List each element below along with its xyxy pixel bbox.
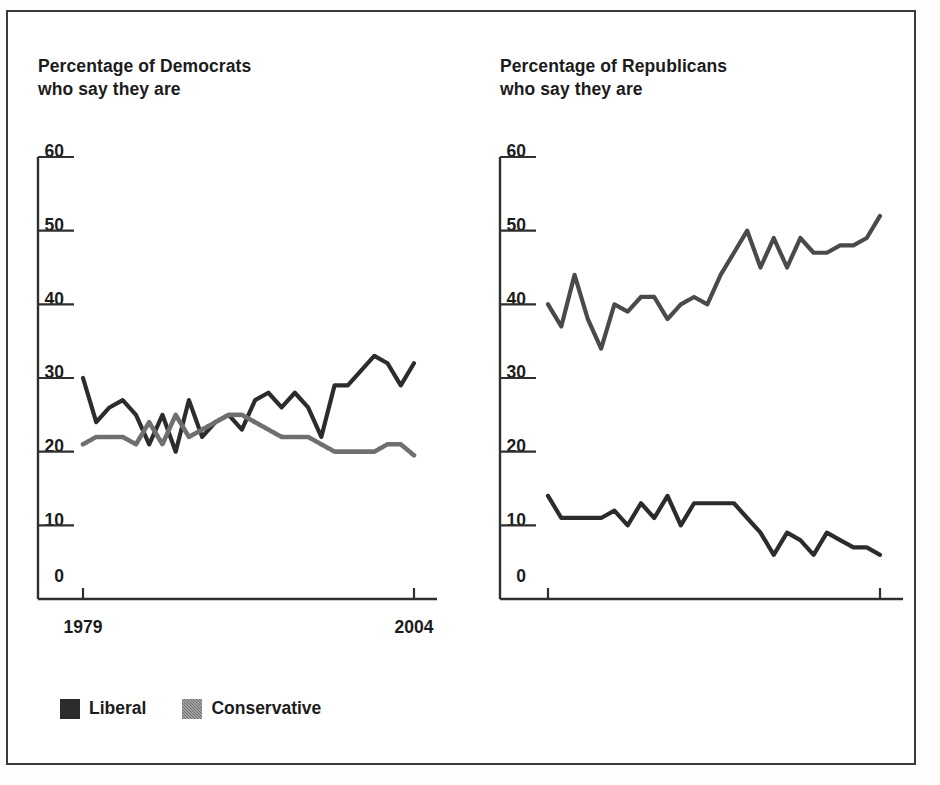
y-tick-label-left-0: 0 — [30, 566, 64, 587]
y-tick-label-right-10: 10 — [492, 510, 526, 531]
x-tick-label-left-end: 2004 — [369, 617, 459, 638]
y-tick-label-left-30: 30 — [30, 362, 64, 383]
legend-item-liberal: Liberal — [60, 698, 146, 719]
chart-figure: Percentage of Democratswho say they are … — [0, 0, 940, 785]
y-tick-label-right-50: 50 — [492, 215, 526, 236]
y-tick-label-right-30: 30 — [492, 362, 526, 383]
panel-title-democrats-line1: Percentage of Democrats — [38, 56, 251, 76]
legend-label-conservative: Conservative — [211, 698, 321, 719]
panel-title-democrats: Percentage of Democratswho say they are — [38, 55, 251, 101]
legend-label-liberal: Liberal — [89, 698, 146, 719]
y-tick-label-left-10: 10 — [30, 510, 64, 531]
y-tick-label-right-0: 0 — [492, 566, 526, 587]
legend: Liberal Conservative — [60, 698, 321, 719]
y-tick-label-right-20: 20 — [492, 436, 526, 457]
panel-title-democrats-line2: who say they are — [38, 79, 181, 99]
panel-title-republicans-line2: who say they are — [500, 79, 643, 99]
y-tick-label-right-60: 60 — [492, 141, 526, 162]
panel-title-republicans-line1: Percentage of Republicans — [500, 56, 727, 76]
y-tick-label-left-20: 20 — [30, 436, 64, 457]
panel-democrats: Percentage of Democratswho say they are … — [0, 0, 470, 785]
y-tick-label-left-40: 40 — [30, 289, 64, 310]
y-tick-label-right-40: 40 — [492, 289, 526, 310]
y-tick-label-left-60: 60 — [30, 141, 64, 162]
liberal-swatch-icon — [60, 699, 80, 719]
panel-republicans: Percentage of Republicanswho say they ar… — [462, 0, 940, 785]
legend-item-conservative: Conservative — [182, 698, 321, 719]
panel-title-republicans: Percentage of Republicanswho say they ar… — [500, 55, 727, 101]
x-tick-label-left-start: 1979 — [38, 617, 128, 638]
conservative-swatch-icon — [182, 699, 202, 719]
y-tick-label-left-50: 50 — [30, 215, 64, 236]
